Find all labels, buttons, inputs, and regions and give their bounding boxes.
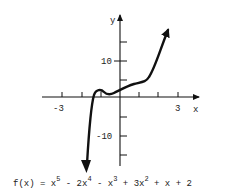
function-equation: f(x) = x5 - 2x4 - x3 + 3x2 + x + 2 — [13, 175, 192, 189]
curve-arrow-down-icon — [81, 160, 91, 173]
x-tick-label-neg3: -3 — [53, 104, 64, 114]
y-tick-label-10: 10 — [101, 57, 112, 67]
function-plot: y x -3 3 10 -10 f(x) = x5 - 2x4 - x3 + 3… — [0, 0, 239, 194]
x-axis-label: x — [193, 105, 198, 115]
y-tick-label-neg10: -10 — [96, 132, 112, 142]
x-tick-label-3: 3 — [175, 104, 180, 114]
y-axis-label: y — [110, 16, 116, 26]
